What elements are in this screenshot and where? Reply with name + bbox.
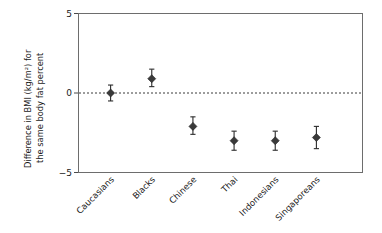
x-axis-category-label: Thai <box>219 174 240 195</box>
data-point-group <box>189 117 197 134</box>
chart-figure: Difference in BMI (kg/m²) for the same b… <box>0 0 382 233</box>
x-axis-category-labels: CaucasiansBlacksChineseThaiIndonesiansSi… <box>74 174 322 223</box>
data-point-marker <box>107 89 115 97</box>
data-point-group <box>312 126 320 148</box>
data-point-marker <box>271 137 279 145</box>
y-axis-title-line-1: Difference in BMI (kg/m²) for <box>23 49 33 168</box>
y-tick-labels: 5 0 −5 <box>59 9 73 178</box>
x-axis-category-label: Indonesians <box>237 174 281 218</box>
data-point-group <box>148 69 156 86</box>
error-bar-chart: Difference in BMI (kg/m²) for the same b… <box>0 0 382 233</box>
x-axis-category-label: Singaporeans <box>273 174 322 223</box>
data-point-marker <box>148 75 156 83</box>
y-tick-label-top: 5 <box>66 9 72 19</box>
data-point-group <box>230 131 238 150</box>
data-point-group <box>107 85 115 101</box>
x-axis-category-label: Caucasians <box>74 174 116 216</box>
y-axis-ticks <box>74 14 78 173</box>
data-point-marker <box>230 137 238 145</box>
data-point-marker <box>312 134 320 142</box>
data-points-layer <box>107 69 321 150</box>
data-point-group <box>271 131 279 150</box>
y-axis-title: Difference in BMI (kg/m²) for the same b… <box>23 49 45 168</box>
y-tick-label-bottom: −5 <box>59 168 72 178</box>
y-axis-title-line-2: the same body fat percent <box>35 52 45 163</box>
x-axis-category-label: Chinese <box>167 174 198 205</box>
y-tick-label-zero: 0 <box>66 88 72 98</box>
data-point-marker <box>189 122 197 130</box>
x-axis-category-label: Blacks <box>130 174 157 201</box>
